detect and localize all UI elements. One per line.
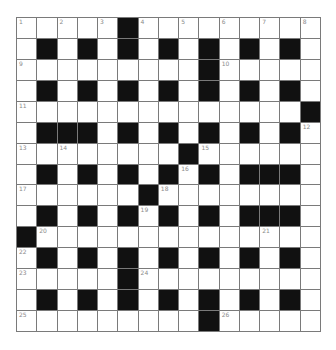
answer-cell[interactable]: [259, 101, 279, 122]
answer-cell[interactable]: [97, 143, 117, 164]
answer-cell[interactable]: [219, 247, 239, 268]
answer-cell[interactable]: [259, 247, 279, 268]
answer-cell[interactable]: [57, 80, 77, 101]
answer-cell[interactable]: [279, 101, 299, 122]
answer-cell[interactable]: 15: [198, 143, 218, 164]
answer-cell[interactable]: [300, 59, 320, 80]
answer-cell[interactable]: [97, 122, 117, 143]
answer-cell[interactable]: [279, 143, 299, 164]
answer-cell[interactable]: [239, 17, 259, 38]
answer-cell[interactable]: [178, 101, 198, 122]
answer-cell[interactable]: 17: [16, 184, 36, 205]
answer-cell[interactable]: [279, 184, 299, 205]
answer-cell[interactable]: [198, 17, 218, 38]
answer-cell[interactable]: 5: [178, 17, 198, 38]
answer-cell[interactable]: 16: [178, 164, 198, 185]
answer-cell[interactable]: [97, 310, 117, 331]
answer-cell[interactable]: [77, 268, 97, 289]
answer-cell[interactable]: [77, 226, 97, 247]
answer-cell[interactable]: [198, 184, 218, 205]
answer-cell[interactable]: [117, 226, 137, 247]
answer-cell[interactable]: [300, 143, 320, 164]
answer-cell[interactable]: [300, 184, 320, 205]
answer-cell[interactable]: [158, 17, 178, 38]
answer-cell[interactable]: [219, 226, 239, 247]
answer-cell[interactable]: 23: [16, 268, 36, 289]
answer-cell[interactable]: [178, 59, 198, 80]
answer-cell[interactable]: 2: [57, 17, 77, 38]
answer-cell[interactable]: [178, 80, 198, 101]
answer-cell[interactable]: [300, 80, 320, 101]
answer-cell[interactable]: [77, 310, 97, 331]
answer-cell[interactable]: [16, 122, 36, 143]
answer-cell[interactable]: 6: [219, 17, 239, 38]
answer-cell[interactable]: [259, 80, 279, 101]
answer-cell[interactable]: 26: [219, 310, 239, 331]
answer-cell[interactable]: [117, 101, 137, 122]
answer-cell[interactable]: [300, 226, 320, 247]
answer-cell[interactable]: [279, 59, 299, 80]
answer-cell[interactable]: [178, 122, 198, 143]
answer-cell[interactable]: [198, 268, 218, 289]
answer-cell[interactable]: [158, 101, 178, 122]
answer-cell[interactable]: [300, 268, 320, 289]
answer-cell[interactable]: [16, 205, 36, 226]
answer-cell[interactable]: [279, 226, 299, 247]
answer-cell[interactable]: [57, 38, 77, 59]
answer-cell[interactable]: 3: [97, 17, 117, 38]
answer-cell[interactable]: [158, 59, 178, 80]
answer-cell[interactable]: [219, 289, 239, 310]
answer-cell[interactable]: [239, 143, 259, 164]
answer-cell[interactable]: [57, 59, 77, 80]
answer-cell[interactable]: [138, 38, 158, 59]
answer-cell[interactable]: [97, 247, 117, 268]
answer-cell[interactable]: [16, 164, 36, 185]
answer-cell[interactable]: [239, 226, 259, 247]
answer-cell[interactable]: [97, 59, 117, 80]
answer-cell[interactable]: [57, 289, 77, 310]
answer-cell[interactable]: 14: [57, 143, 77, 164]
answer-cell[interactable]: [219, 101, 239, 122]
answer-cell[interactable]: [97, 164, 117, 185]
answer-cell[interactable]: [57, 310, 77, 331]
answer-cell[interactable]: [77, 184, 97, 205]
answer-cell[interactable]: 25: [16, 310, 36, 331]
answer-cell[interactable]: [57, 164, 77, 185]
answer-cell[interactable]: [117, 184, 137, 205]
answer-cell[interactable]: [259, 268, 279, 289]
answer-cell[interactable]: [138, 247, 158, 268]
answer-cell[interactable]: 20: [36, 226, 56, 247]
answer-cell[interactable]: [219, 268, 239, 289]
answer-cell[interactable]: [178, 205, 198, 226]
answer-cell[interactable]: [57, 226, 77, 247]
answer-cell[interactable]: 8: [300, 17, 320, 38]
answer-cell[interactable]: 4: [138, 17, 158, 38]
answer-cell[interactable]: [219, 122, 239, 143]
answer-cell[interactable]: 24: [138, 268, 158, 289]
answer-cell[interactable]: [57, 101, 77, 122]
answer-cell[interactable]: [97, 184, 117, 205]
answer-cell[interactable]: 7: [259, 17, 279, 38]
answer-cell[interactable]: [97, 268, 117, 289]
answer-cell[interactable]: [57, 184, 77, 205]
answer-cell[interactable]: [239, 59, 259, 80]
answer-cell[interactable]: [158, 143, 178, 164]
answer-cell[interactable]: [239, 184, 259, 205]
answer-cell[interactable]: [279, 17, 299, 38]
answer-cell[interactable]: [300, 38, 320, 59]
answer-cell[interactable]: [178, 310, 198, 331]
answer-cell[interactable]: [300, 247, 320, 268]
answer-cell[interactable]: [77, 101, 97, 122]
answer-cell[interactable]: [300, 310, 320, 331]
answer-cell[interactable]: [198, 101, 218, 122]
answer-cell[interactable]: [138, 289, 158, 310]
answer-cell[interactable]: [77, 59, 97, 80]
answer-cell[interactable]: [178, 184, 198, 205]
answer-cell[interactable]: [138, 226, 158, 247]
answer-cell[interactable]: [16, 80, 36, 101]
answer-cell[interactable]: [36, 310, 56, 331]
answer-cell[interactable]: [36, 59, 56, 80]
answer-cell[interactable]: [16, 38, 36, 59]
answer-cell[interactable]: [77, 143, 97, 164]
answer-cell[interactable]: [178, 247, 198, 268]
